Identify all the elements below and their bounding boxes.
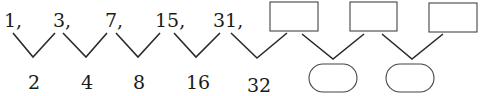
connector-7: [382, 34, 443, 59]
term-5: 31,: [213, 9, 243, 31]
blank-difference-oval-2[interactable]: [386, 64, 434, 92]
blank-term-box-1[interactable]: [270, 2, 318, 31]
term-2: 3,: [53, 9, 71, 31]
blank-term-box-2[interactable]: [350, 2, 397, 31]
difference-2: 4: [81, 71, 93, 93]
term-3: 7,: [105, 9, 123, 31]
connector-6: [302, 34, 364, 59]
difference-4: 16: [186, 71, 210, 93]
connector-1: [13, 33, 55, 57]
connector-3: [116, 33, 160, 57]
difference-5: 32: [247, 74, 271, 96]
blank-difference-oval-1[interactable]: [309, 64, 357, 92]
connector-5: [231, 33, 287, 58]
sequence-diagram: 1, 3, 7, 15, 31, 2 4 8 16 32: [0, 0, 481, 96]
connector-4: [174, 33, 220, 57]
term-1: 1,: [4, 9, 22, 31]
connector-2: [63, 33, 107, 57]
term-4: 15,: [155, 9, 185, 31]
blank-term-box-3[interactable]: [429, 3, 477, 32]
difference-3: 8: [133, 71, 145, 93]
difference-1: 2: [28, 71, 40, 93]
